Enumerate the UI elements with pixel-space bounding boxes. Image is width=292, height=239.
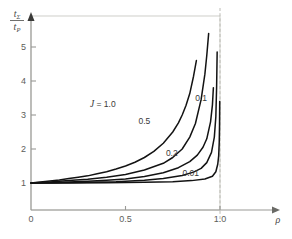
curve-j-0-5 xyxy=(31,33,209,183)
y-tick-label-3: 4 xyxy=(21,76,26,86)
curve-j-0-1 xyxy=(31,52,217,183)
x-tick-label-0: 0 xyxy=(28,214,33,224)
x-axis-label: ρ xyxy=(275,214,281,225)
curve-j-1-0 xyxy=(31,61,196,183)
curve-label-0-2: 0.2 xyxy=(166,148,178,158)
x-tick-label-1: 0.5 xyxy=(119,214,132,224)
y-tick-label-0: 1 xyxy=(21,178,26,188)
chart-figure: 00.51.012345ρtΣtPJ = 1.00.50.20.10.01 xyxy=(0,0,292,239)
x-tick-label-2: 1.0 xyxy=(214,214,227,224)
x-axis-arrow xyxy=(272,207,280,214)
curve-label-0-01: 0.01 xyxy=(182,168,199,178)
curve-label-j-1-0: J = 1.0 xyxy=(90,99,116,109)
y-tick-label-1: 2 xyxy=(21,144,26,154)
chart-canvas: 00.51.012345ρtΣtPJ = 1.00.50.20.10.01 xyxy=(0,0,292,239)
curve-label-0-5: 0.5 xyxy=(138,116,150,126)
y-axis-label-denominator: tP xyxy=(14,21,21,33)
curve-label-0-1: 0.1 xyxy=(195,93,207,103)
y-axis-label-numerator: tΣ xyxy=(14,8,21,20)
y-tick-label-4: 5 xyxy=(21,42,26,52)
y-axis-arrow xyxy=(28,12,35,21)
y-tick-label-2: 3 xyxy=(21,110,26,120)
